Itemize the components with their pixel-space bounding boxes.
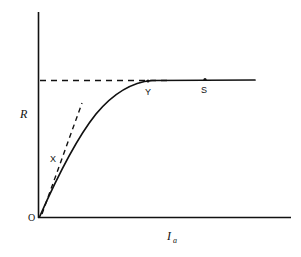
point-dot-S — [203, 78, 206, 81]
y-axis-label: R — [19, 107, 28, 121]
x-axis-label-subscript: a — [173, 236, 177, 245]
x-axis-label: I — [166, 229, 172, 243]
point-label-X: X — [50, 154, 56, 164]
point-dot-Y — [146, 79, 149, 82]
origin-label: O — [28, 212, 35, 223]
response-curve — [40, 80, 256, 217]
figure-container: O R I a X Y S — [0, 0, 301, 257]
point-label-Y: Y — [145, 87, 151, 97]
point-label-S: S — [201, 85, 207, 95]
plot-svg: O R I a X Y S — [0, 0, 301, 257]
